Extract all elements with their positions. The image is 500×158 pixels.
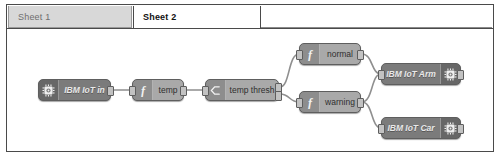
tab-sheet-1[interactable]: Sheet 1 (8, 6, 132, 28)
port-in-temp-thresh[interactable] (202, 86, 209, 96)
node-ibm-iot-car-label-wrap: IBM IoT Car (382, 123, 440, 133)
port-out-warning[interactable] (357, 98, 364, 108)
node-temp-thresh-label-wrap: temp thresh (226, 85, 278, 95)
tab-bar-empty-area[interactable] (261, 6, 492, 28)
flow-canvas[interactable]: IBM IoT in f temp (6, 28, 494, 152)
node-ibm-iot-in-label-wrap: IBM IoT in (59, 85, 110, 95)
node-temp-label: temp (159, 85, 178, 95)
node-ibm-iot-arm-label-wrap: IBM IoT Arm (382, 69, 440, 79)
node-temp-thresh[interactable]: temp thresh (205, 79, 279, 101)
port-in-temp[interactable] (129, 86, 136, 96)
function-icon: f (300, 92, 320, 112)
node-ibm-iot-arm-label: IBM IoT Arm (386, 69, 436, 79)
node-normal-label: normal (327, 49, 353, 59)
svg-text:f: f (307, 48, 313, 61)
node-ibm-iot-arm[interactable]: IBM IoT Arm (381, 63, 461, 85)
chip-icon (39, 80, 59, 100)
port-out-ibm-iot-car[interactable] (457, 124, 464, 134)
port-out-ibm-iot-arm[interactable] (457, 70, 464, 80)
function-icon: f (300, 44, 320, 64)
svg-text:f: f (307, 96, 313, 109)
sheet-tab-bar: Sheet 1 Sheet 2 (6, 4, 494, 28)
node-temp-thresh-label: temp thresh (230, 85, 275, 95)
port-in-ibm-iot-arm[interactable] (378, 70, 385, 80)
node-red-editor-window: Sheet 1 Sheet 2 (0, 0, 500, 158)
node-warning[interactable]: f warning (299, 91, 361, 113)
tab-sheet-1-label: Sheet 1 (18, 12, 50, 22)
node-temp[interactable]: f temp (132, 79, 184, 101)
node-warning-label: warning (325, 97, 355, 107)
switch-icon (206, 80, 226, 100)
port-in-normal[interactable] (296, 50, 303, 60)
tab-sheet-2[interactable]: Sheet 2 (133, 6, 261, 28)
node-normal[interactable]: f normal (299, 43, 361, 65)
node-ibm-iot-car-label: IBM IoT Car (387, 123, 434, 133)
node-ibm-iot-in[interactable]: IBM IoT in (38, 79, 111, 101)
port-in-warning[interactable] (296, 98, 303, 108)
port-out-normal[interactable] (357, 50, 364, 60)
port-out-temp-thresh-2[interactable] (275, 91, 282, 101)
function-icon: f (133, 80, 153, 100)
port-out-ibm-iot-in[interactable] (107, 86, 114, 96)
tab-sheet-2-label: Sheet 2 (143, 12, 176, 22)
svg-text:f: f (140, 84, 146, 97)
node-temp-label-wrap: temp (153, 85, 183, 95)
node-warning-label-wrap: warning (320, 97, 360, 107)
node-normal-label-wrap: normal (320, 49, 360, 59)
port-in-ibm-iot-car[interactable] (378, 124, 385, 134)
port-out-temp[interactable] (180, 86, 187, 96)
node-ibm-iot-in-label: IBM IoT in (64, 85, 105, 95)
node-ibm-iot-car[interactable]: IBM IoT Car (381, 117, 461, 139)
